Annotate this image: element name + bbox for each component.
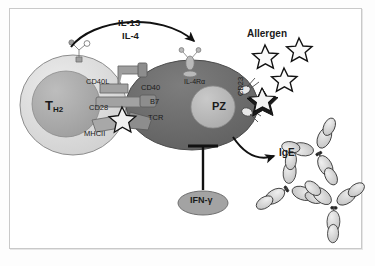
figure-canvas: IL-13 IL-4 Allergen IgE TH2 PZ IFN-γ CD4… <box>0 0 375 266</box>
label-th2-main: T <box>45 98 53 113</box>
label-th2-sub: H2 <box>53 105 63 114</box>
label-cd40: CD40 <box>141 84 160 92</box>
ifng-inhibition <box>188 145 218 190</box>
allergen-star-icon <box>253 45 278 68</box>
allergen-star-icon <box>287 38 312 61</box>
label-th2-cell: TH2 <box>45 99 63 112</box>
diagram-svg <box>0 0 375 266</box>
allergen-free-stars <box>253 38 312 91</box>
label-il13: IL-13 <box>118 18 140 28</box>
label-pz-nucleus: PZ <box>212 101 226 112</box>
allergen-star-icon <box>272 68 297 91</box>
label-il4-receptor-alpha: IL-4Rα <box>184 78 205 85</box>
label-b7: B7 <box>150 98 159 106</box>
label-cd28: CD28 <box>89 104 108 112</box>
label-il4: IL-4 <box>122 31 139 41</box>
label-allergen: Allergen <box>247 29 287 39</box>
label-ige: IgE <box>279 148 295 158</box>
label-cd40l: CD40L <box>86 78 109 86</box>
label-tcr: TCR <box>148 114 163 122</box>
label-cd23: CD23 <box>237 77 245 96</box>
label-mhcii: MHCII <box>84 130 105 138</box>
ige-antibody <box>300 177 368 244</box>
label-ifn-gamma: IFN-γ <box>190 196 213 205</box>
ige-arrow <box>233 137 274 158</box>
